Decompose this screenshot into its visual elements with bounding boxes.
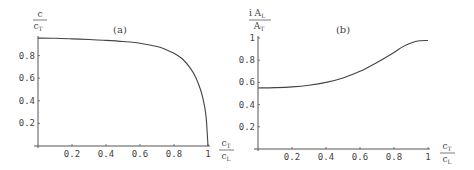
y-ticks-b: 0.20.40.60.81 <box>239 33 260 132</box>
y-ticks-a: 0.20.40.60.8 <box>19 51 40 129</box>
x-tick-label: 0.4 <box>98 149 114 159</box>
y-tick-label: 1 <box>250 33 255 43</box>
x-tick-label: 0.8 <box>386 152 402 162</box>
x-tick-label: 0.6 <box>132 149 148 159</box>
y-tick-label: 0.4 <box>239 100 255 110</box>
y-tick-label: 0.6 <box>239 77 255 87</box>
x-tick-label: 0.2 <box>64 149 80 159</box>
panel-label-a: (a) <box>113 24 127 35</box>
x-axis-label-a: cT cL <box>219 138 234 162</box>
y-axis-label-b: i AL AT <box>249 8 271 32</box>
x-axis-label-b: cT cL <box>440 141 455 165</box>
svg-text:cT: cT <box>33 21 42 32</box>
panel-a: 0.20.40.60.81 0.20.40.60.8 (a) c cT cT c… <box>19 9 234 162</box>
x-tick-label: 0.2 <box>284 152 300 162</box>
y-tick-label: 0.2 <box>239 122 255 132</box>
svg-text:cT: cT <box>442 141 451 152</box>
svg-text:cT: cT <box>221 138 230 149</box>
y-tick-label: 0.8 <box>19 51 35 61</box>
y-tick-label: 0.2 <box>19 118 35 128</box>
svg-text:cL: cL <box>221 151 230 162</box>
svg-text:i AL: i AL <box>249 8 265 19</box>
x-tick-label: 1 <box>425 152 430 162</box>
x-tick-label: 1 <box>205 149 210 159</box>
y-tick-label: 0.8 <box>239 55 255 65</box>
svg-text:c: c <box>37 9 42 19</box>
panel-label-b: (b) <box>336 24 350 35</box>
y-tick-label: 0.4 <box>19 96 35 106</box>
x-tick-label: 0.4 <box>318 152 334 162</box>
svg-text:cL: cL <box>442 154 451 165</box>
y-axis-label-a: c cT <box>33 9 47 32</box>
x-tick-label: 0.8 <box>166 149 182 159</box>
svg-text:AT: AT <box>253 21 265 32</box>
panel-b: 0.20.40.60.81 0.20.40.60.81 (b) i AL AT … <box>239 8 455 165</box>
curve-b <box>258 40 428 88</box>
y-tick-label: 0.6 <box>19 73 35 83</box>
curve-a <box>38 38 208 146</box>
x-tick-label: 0.6 <box>352 152 368 162</box>
figure: 0.20.40.60.81 0.20.40.60.8 (a) c cT cT c… <box>0 0 474 170</box>
